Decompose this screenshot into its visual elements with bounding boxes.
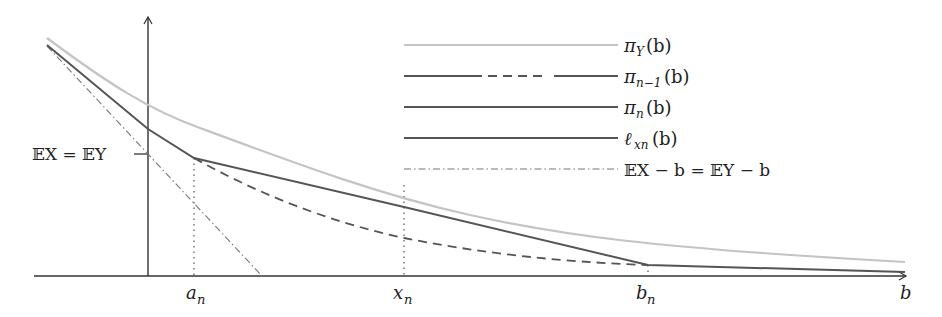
legend: π Y (b) π n−1 (b) π n (b) ℓ xn (b) 𝔼X − … [404,35,770,180]
diagram-canvas: a n x n b n b 𝔼X = 𝔼Y π Y (b) π n−1 (b) … [0,0,942,317]
svg-text:(b): (b) [664,66,690,87]
svg-text:x: x [393,282,403,303]
legend-item-asymptote: 𝔼X − b = 𝔼Y − b [404,160,770,180]
label-a-n: a n [186,282,205,307]
svg-text:n: n [197,292,205,307]
label-x-n: x n [393,282,412,307]
legend-item-ell-xn: ℓ xn (b) [404,128,678,152]
svg-text:n: n [636,107,644,121]
svg-text:(b): (b) [652,128,678,149]
curve-pi-Y [47,38,905,262]
curve-pi-n [47,45,905,272]
svg-text:n−1: n−1 [636,76,661,90]
svg-text:(b): (b) [646,35,672,56]
y-tick-label: 𝔼X = 𝔼Y [32,144,107,164]
svg-text:π: π [623,35,637,56]
svg-text:(b): (b) [646,97,672,118]
x-axis-label: b [900,282,912,303]
svg-text:a: a [186,282,197,303]
svg-text:π: π [623,97,637,118]
label-b-n: b n [636,282,655,307]
svg-text:xn: xn [634,138,649,152]
svg-text:ℓ: ℓ [624,128,632,149]
legend-item-pi-Y: π Y (b) [404,35,672,59]
legend-item-pi-n: π n (b) [404,97,672,121]
svg-text:b: b [636,282,648,303]
svg-text:n: n [647,292,655,307]
svg-text:π: π [623,66,637,87]
legend-item-pi-n-minus-1: π n−1 (b) [404,66,690,90]
svg-text:Y: Y [636,45,645,59]
svg-text:n: n [404,292,412,307]
svg-text:𝔼X − b = 𝔼Y − b: 𝔼X − b = 𝔼Y − b [624,160,770,180]
